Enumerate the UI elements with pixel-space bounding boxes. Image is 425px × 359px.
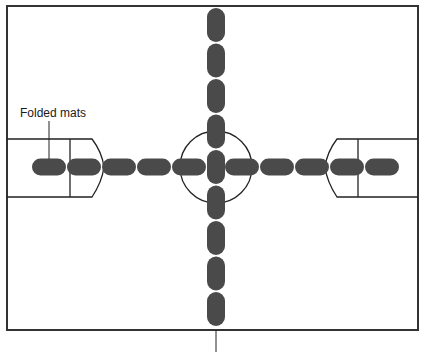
mat-vertical-8 <box>207 257 225 291</box>
mat-left-5 <box>172 159 206 176</box>
mat-right-2 <box>260 159 294 176</box>
mat-layout-diagram: Folded mats <box>0 0 425 359</box>
mat-vertical-5 <box>207 150 225 184</box>
mat-vertical-9 <box>207 292 225 326</box>
folded-mats-label: Folded mats <box>20 106 86 120</box>
mat-vertical-2 <box>207 44 225 78</box>
mat-vertical-7 <box>207 221 225 255</box>
mat-left-1 <box>32 159 66 176</box>
mat-right-4 <box>330 159 364 176</box>
mat-vertical-1 <box>207 8 225 42</box>
mat-right-1 <box>225 159 259 176</box>
mat-left-3 <box>102 159 136 176</box>
mat-vertical-6 <box>207 186 225 220</box>
mat-right-5 <box>365 159 399 176</box>
mat-left-2 <box>67 159 101 176</box>
vertical-mat-column <box>207 8 225 326</box>
mat-left-4 <box>137 159 171 176</box>
mat-vertical-3 <box>207 79 225 113</box>
mat-right-3 <box>295 159 329 176</box>
mat-vertical-4 <box>207 115 225 149</box>
